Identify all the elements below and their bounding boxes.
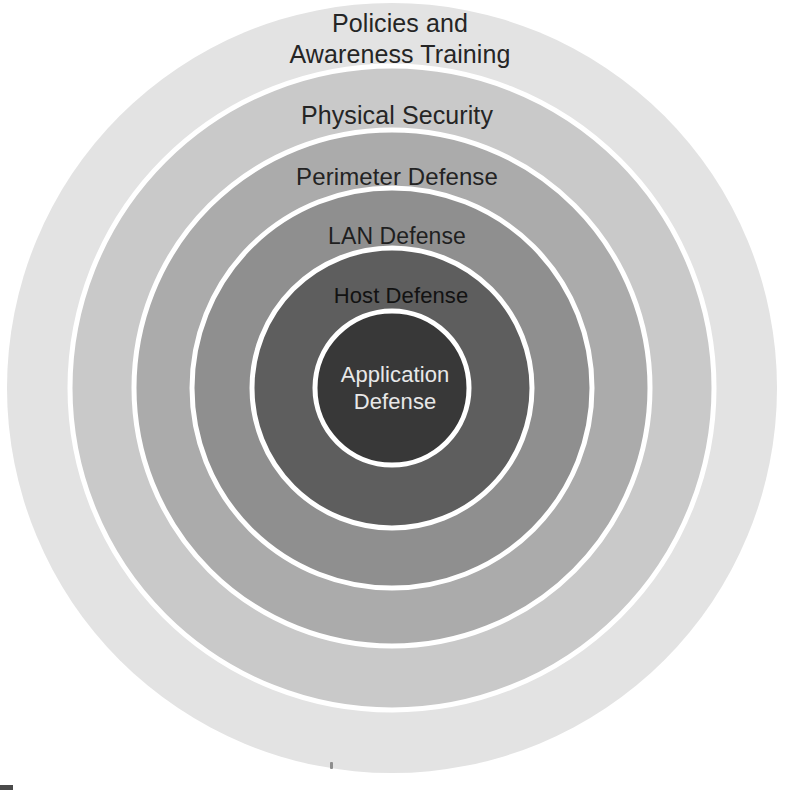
ring-label-policies-and-awareness-training: Policies and Awareness Training — [250, 8, 550, 69]
defense-in-depth-diagram: Policies and Awareness Training Physical… — [0, 0, 789, 790]
corner-crop-mark — [0, 785, 13, 790]
ring-label-application-defense: Application Defense — [302, 362, 488, 416]
ring-label-physical-security: Physical Security — [262, 100, 532, 131]
ring-label-lan-defense: LAN Defense — [282, 222, 512, 250]
ring-label-perimeter-defense: Perimeter Defense — [262, 162, 532, 191]
page-artifact-mark — [330, 762, 333, 769]
ring-label-host-defense: Host Defense — [286, 283, 516, 310]
